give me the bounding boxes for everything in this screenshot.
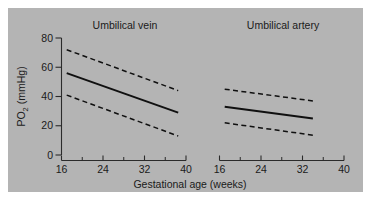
series-artery-mean — [225, 107, 313, 119]
series-vein-lower-limit — [67, 95, 179, 136]
y-axis-title-unit: (mmHg) — [15, 66, 27, 107]
x-axis-tick-labels-left: 16 24 32 40 — [56, 163, 192, 175]
x-tick-right-32: 32 — [297, 163, 309, 175]
chart-plot: Umbilical vein 80 60 40 20 0 — [0, 0, 371, 204]
figure-canvas: Umbilical vein 80 60 40 20 0 — [0, 0, 371, 204]
panel-umbilical-vein: Umbilical vein 80 60 40 20 0 — [15, 19, 192, 175]
y-axis-major-ticks — [56, 38, 62, 155]
x-tick-left-32: 32 — [139, 163, 151, 175]
y-tick-80: 80 — [41, 32, 53, 44]
x-tick-right-24: 24 — [255, 163, 267, 175]
svg-text:PO2 (mmHg): PO2 (mmHg) — [15, 66, 30, 126]
y-axis-title-main: PO — [15, 111, 27, 126]
panel-title-umbilical-artery: Umbilical artery — [247, 19, 320, 31]
y-axis-title: PO2 (mmHg) — [15, 66, 30, 126]
series-vein-upper-limit — [67, 50, 179, 91]
panel-umbilical-artery: Umbilical artery 16 24 32 40 — [214, 19, 350, 175]
x-tick-left-16: 16 — [56, 163, 68, 175]
series-artery-lower-limit — [225, 123, 313, 135]
x-tick-left-40: 40 — [180, 163, 192, 175]
y-tick-40: 40 — [41, 90, 53, 102]
x-tick-right-16: 16 — [214, 163, 226, 175]
panel-title-umbilical-vein: Umbilical vein — [93, 19, 158, 31]
y-tick-60: 60 — [41, 61, 53, 73]
x-tick-right-40: 40 — [338, 163, 350, 175]
x-axis-ticks-right — [220, 156, 345, 161]
series-artery-upper-limit — [225, 89, 313, 101]
x-tick-left-24: 24 — [97, 163, 109, 175]
y-tick-0: 0 — [47, 149, 53, 161]
x-axis-tick-labels-right: 16 24 32 40 — [214, 163, 350, 175]
y-tick-20: 20 — [41, 119, 53, 131]
series-vein-mean — [67, 73, 179, 113]
y-axis-tick-labels: 80 60 40 20 0 — [41, 32, 53, 161]
x-axis-title: Gestational age (weeks) — [133, 178, 246, 190]
x-axis-ticks-left — [62, 156, 187, 161]
